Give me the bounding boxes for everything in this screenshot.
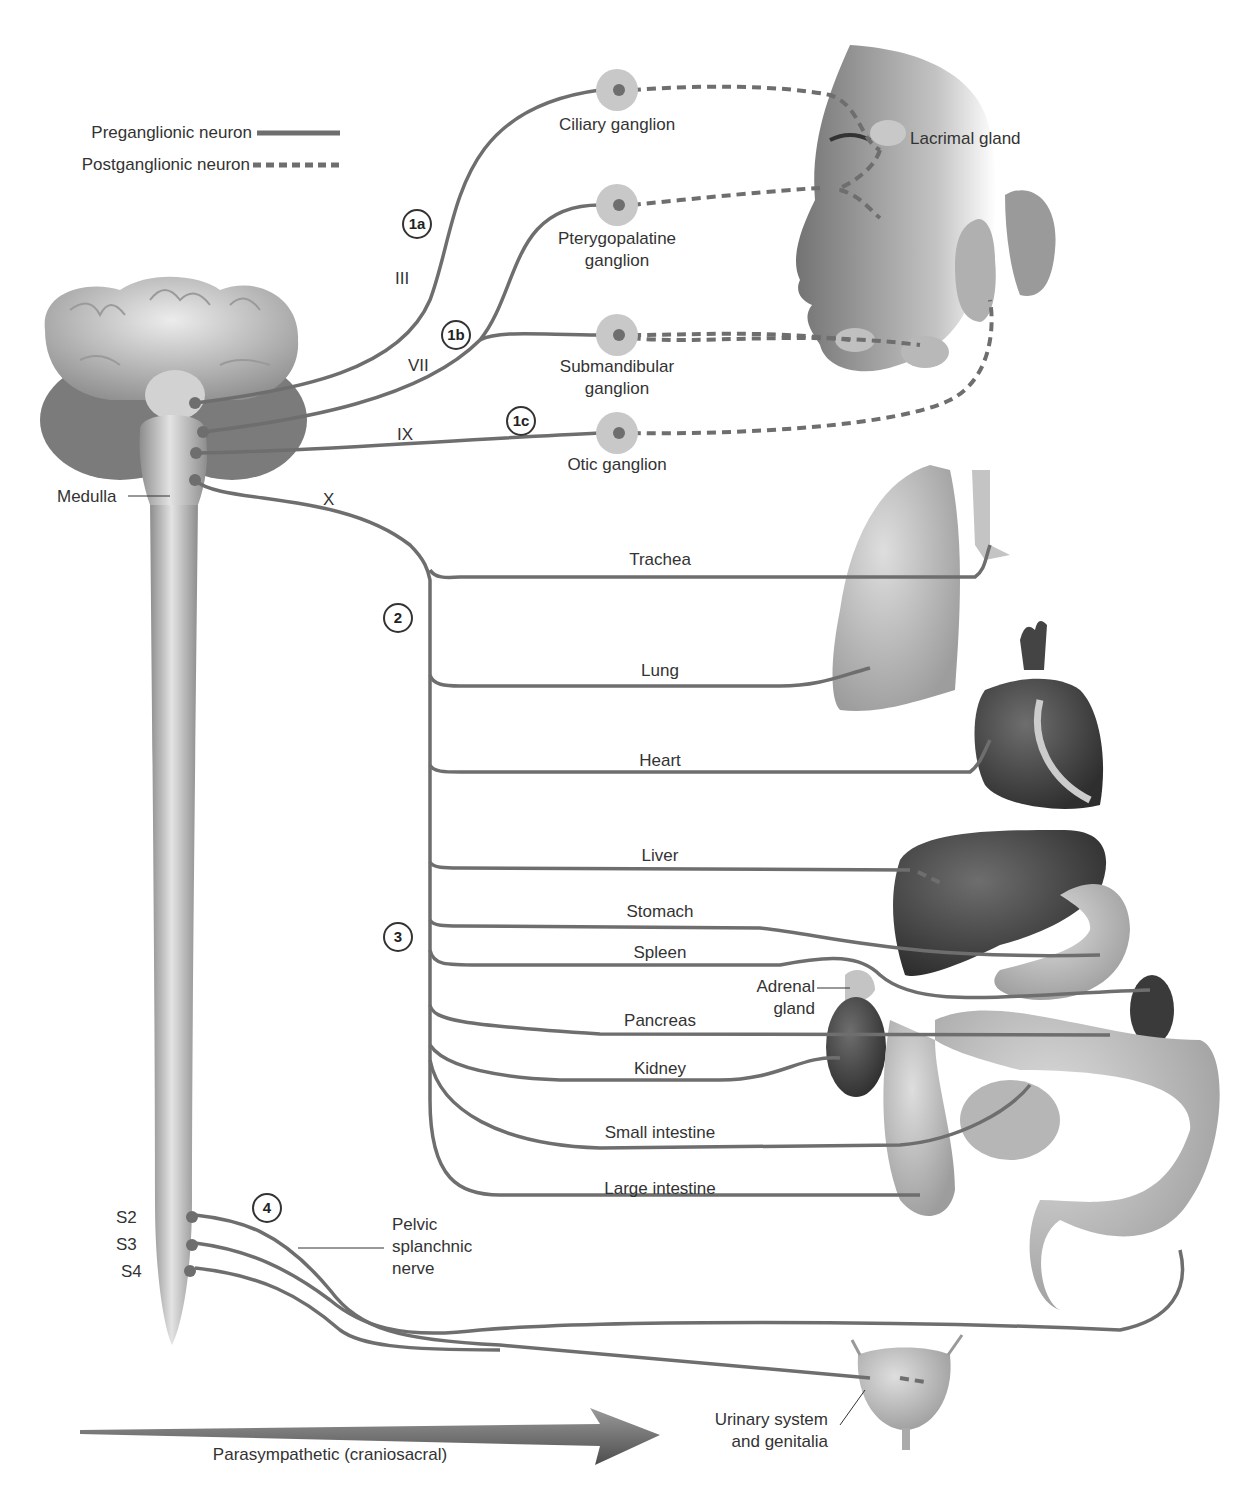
- organ-label-spleen: Spleen: [560, 942, 760, 964]
- legend-postganglionic-label: Postganglionic neuron: [20, 154, 250, 176]
- bladder-illustration: [852, 1335, 962, 1450]
- heart-illustration: [974, 621, 1103, 809]
- organ-label-liver: Liver: [560, 845, 760, 867]
- diagram-canvas: [0, 0, 1259, 1489]
- medulla-label: Medulla: [57, 486, 117, 508]
- ganglion-label-ciliary: Ciliary ganglion: [517, 114, 717, 136]
- organ-label-large-intestine: Large intestine: [560, 1178, 760, 1200]
- sacral-label-s3: S3: [116, 1234, 137, 1256]
- organ-label-small-intestine: Small intestine: [560, 1122, 760, 1144]
- face-illustration: [796, 45, 1056, 371]
- nerve-label-line: Pelvic: [392, 1215, 437, 1234]
- urinary-label-line: Urinary system: [715, 1410, 828, 1429]
- parasympathetic-arrow-label: Parasympathetic (craniosacral): [170, 1444, 490, 1466]
- adrenal-gland-label: Adrenal gland: [720, 976, 815, 1020]
- ganglion-label-line: ganglion: [585, 379, 649, 398]
- ganglion-label-line: Pterygopalatine: [558, 229, 676, 248]
- organ-label-stomach: Stomach: [560, 901, 760, 923]
- urinary-leader-line: [840, 1390, 865, 1425]
- nerve-label-line: nerve: [392, 1259, 435, 1278]
- organ-label-heart: Heart: [560, 750, 760, 772]
- nerve-label-x: X: [323, 489, 334, 511]
- urinary-label-line: and genitalia: [732, 1432, 828, 1451]
- adrenal-label-line: gland: [773, 999, 815, 1018]
- step-marker-3: 3: [383, 922, 413, 952]
- ganglion-label-submandibular: Submandibular ganglion: [517, 356, 717, 400]
- ganglion-label-pterygopalatine: Pterygopalatine ganglion: [517, 228, 717, 272]
- urinary-system-label: Urinary system and genitalia: [660, 1409, 828, 1453]
- step-marker-1b: 1b: [441, 320, 471, 350]
- organ-label-kidney: Kidney: [560, 1058, 760, 1080]
- ganglion-label-line: ganglion: [585, 251, 649, 270]
- nerve-label-line: splanchnic: [392, 1237, 472, 1256]
- nerve-label-ix: IX: [397, 424, 413, 446]
- organ-label-lung: Lung: [560, 660, 760, 682]
- step-marker-1c: 1c: [506, 406, 536, 436]
- adrenal-label-line: Adrenal: [756, 977, 815, 996]
- nerve-label-vii: VII: [408, 355, 429, 377]
- sacral-label-s4: S4: [121, 1261, 142, 1283]
- step-marker-2: 2: [383, 603, 413, 633]
- ganglion-label-line: Submandibular: [560, 357, 674, 376]
- target-label-lacrimal-gland: Lacrimal gland: [910, 128, 1021, 150]
- organ-label-trachea: Trachea: [560, 549, 760, 571]
- lung-illustration: [833, 465, 1011, 711]
- step-marker-4: 4: [252, 1193, 282, 1223]
- intestine-illustration: [883, 1010, 1219, 1310]
- sacral-label-s2: S2: [116, 1207, 137, 1229]
- legend-preganglionic-label: Preganglionic neuron: [40, 122, 252, 144]
- ganglion-label-otic: Otic ganglion: [517, 454, 717, 476]
- step-marker-1a: 1a: [402, 209, 432, 239]
- pelvic-splanchnic-nerve-label: Pelvic splanchnic nerve: [392, 1214, 472, 1280]
- nerve-label-iii: III: [395, 268, 409, 290]
